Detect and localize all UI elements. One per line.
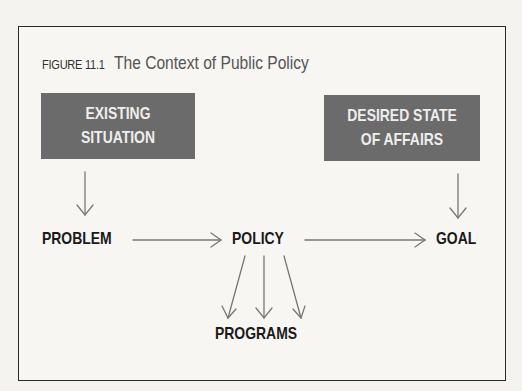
arrow-existing-to-problem — [77, 172, 93, 215]
arrow-policy-to-goal — [305, 233, 425, 247]
arrows-layer — [0, 0, 522, 391]
arrow-policy-to-programs-right — [284, 256, 305, 318]
arrow-policy-to-programs-center — [256, 256, 272, 318]
arrow-policy-to-programs-left — [222, 256, 245, 318]
arrow-problem-to-policy — [133, 233, 221, 247]
arrow-desired-to-goal — [450, 174, 466, 218]
